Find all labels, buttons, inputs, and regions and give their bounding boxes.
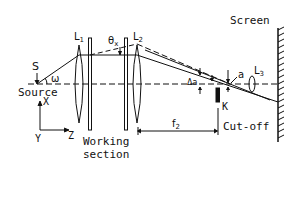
cutoff-label: Cut-off	[223, 121, 269, 132]
lens2-label: L2	[133, 32, 143, 44]
screen-label: Screen	[230, 15, 270, 26]
lens1-label: L1	[74, 32, 84, 44]
k-label: K	[222, 102, 228, 112]
axis-x-label: X	[43, 97, 49, 107]
lens3-label: L3	[254, 66, 264, 78]
axis-y-label: Y	[35, 134, 41, 144]
a-label: a	[238, 70, 244, 80]
a-leader	[231, 77, 237, 83]
secondary-ray	[145, 50, 270, 100]
knife-edge	[216, 88, 220, 102]
window-1	[89, 38, 92, 130]
axis-z-label: Z	[68, 131, 74, 141]
omega-arc	[45, 78, 47, 84]
delta-a-label: Δa	[187, 79, 197, 87]
source-label: Source	[18, 87, 58, 98]
screen-hatching	[278, 27, 284, 138]
theta-label: θx	[108, 36, 118, 48]
working-section-label-2: section	[83, 149, 129, 160]
schlieren-diagram: Screen Source S ω L1 L2 L3 θx Δa a K Cut…	[0, 0, 298, 208]
omega-label: ω	[51, 74, 59, 84]
source-point-label: S	[32, 61, 39, 72]
window-2	[125, 38, 128, 130]
working-section-label-1: Working	[83, 136, 129, 147]
f2-label: f2	[172, 119, 180, 131]
